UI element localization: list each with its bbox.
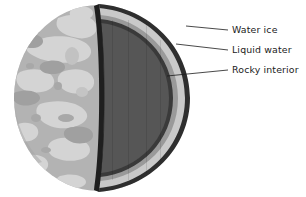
crater xyxy=(76,87,88,97)
label-water-ice: Water ice xyxy=(232,24,278,35)
surface-shadow-patch xyxy=(40,60,65,74)
crater xyxy=(26,63,34,69)
crater xyxy=(65,47,79,65)
diagram-canvas: Water ice Liquid water Rocky interior xyxy=(0,0,306,197)
crater xyxy=(58,114,74,122)
crater xyxy=(31,114,41,122)
crater xyxy=(54,82,62,90)
label-liquid-water: Liquid water xyxy=(232,44,292,55)
crater xyxy=(41,147,51,153)
icy-moon-cutaway-diagram: Water ice Liquid water Rocky interior xyxy=(0,0,306,197)
label-rocky-interior: Rocky interior xyxy=(232,64,299,75)
